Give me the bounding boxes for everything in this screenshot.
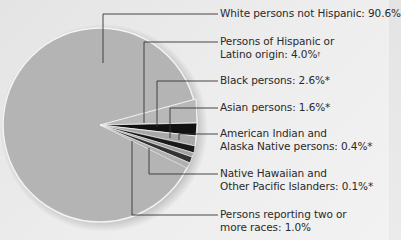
label-asian: Asian persons: 1.6%* bbox=[220, 101, 330, 114]
label-two-or-more: Persons reporting two or more races: 1.0… bbox=[220, 208, 347, 234]
label-white: White persons not Hispanic: 90.6% bbox=[220, 7, 401, 20]
label-native-hawaiian: Native Hawaiian and Other Pacific Island… bbox=[220, 167, 373, 193]
label-american-indian: American Indian and Alaska Native person… bbox=[220, 127, 372, 153]
label-black: Black persons: 2.6%* bbox=[220, 74, 330, 87]
label-hispanic: Persons of Hispanic or Latino origin: 4.… bbox=[220, 35, 334, 61]
